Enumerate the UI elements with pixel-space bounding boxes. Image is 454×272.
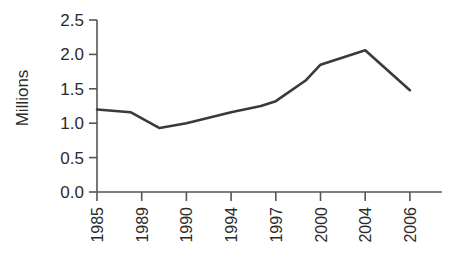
y-tick-marks: [89, 20, 97, 192]
line-chart: 0.00.51.01.52.02.5 198519891990199419972…: [0, 0, 454, 272]
x-tick-label: 2004: [357, 207, 374, 243]
x-tick-label: 2006: [402, 207, 419, 243]
y-axis-title: Millions: [13, 70, 32, 127]
chart-canvas: 0.00.51.01.52.02.5 198519891990199419972…: [0, 0, 454, 272]
y-tick-label: 2.0: [60, 45, 84, 64]
data-series-line: [97, 50, 410, 128]
x-tick-labels: 19851989199019941997200020042006: [89, 207, 419, 243]
x-tick-label: 1990: [178, 207, 195, 243]
y-tick-label: 0.0: [60, 183, 84, 202]
axis-title-group: Millions: [13, 70, 32, 127]
x-tick-label: 2000: [313, 207, 330, 243]
y-tick-label: 2.5: [60, 11, 84, 30]
x-tick-label: 1989: [134, 207, 151, 243]
x-tick-label: 1994: [223, 207, 240, 243]
y-axis-group: 0.00.51.01.52.02.5: [60, 11, 97, 202]
series-group: [97, 50, 410, 128]
x-tick-label: 1985: [89, 207, 106, 243]
x-tick-label: 1997: [268, 207, 285, 243]
y-tick-label: 0.5: [60, 149, 84, 168]
y-tick-label: 1.5: [60, 80, 84, 99]
y-tick-label: 1.0: [60, 114, 84, 133]
x-tick-marks: [97, 192, 410, 201]
y-tick-labels: 0.00.51.01.52.02.5: [60, 11, 84, 202]
x-axis-group: 19851989199019941997200020042006: [89, 192, 442, 243]
